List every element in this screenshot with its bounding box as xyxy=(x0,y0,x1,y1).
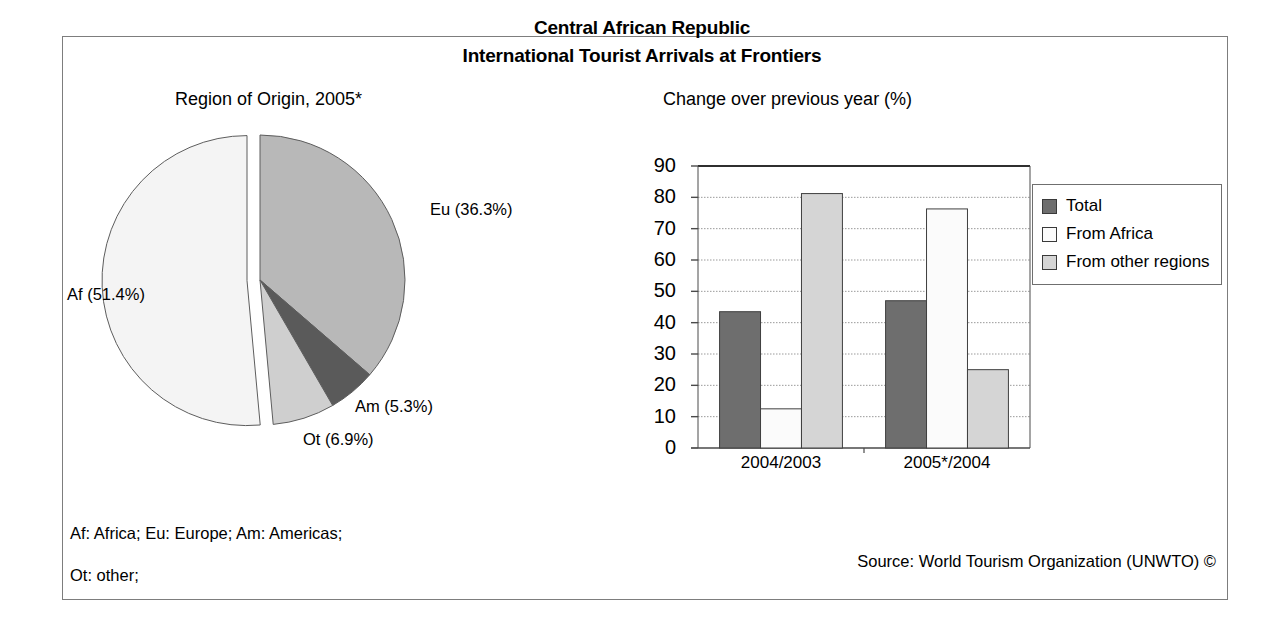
legend-item-from-other-regions[interactable]: From other regions xyxy=(1042,248,1210,276)
y-tick-label-50: 50 xyxy=(630,280,676,300)
bar-series-group xyxy=(720,194,1009,448)
x-tick-label-1: 2005*/2004 xyxy=(864,453,1030,473)
y-tick-label-60: 60 xyxy=(630,249,676,269)
bar-20052004-from-other-regions xyxy=(967,370,1008,448)
bar-20052004-total xyxy=(886,301,927,448)
pie-chart-subtitle: Region of Origin, 2005* xyxy=(175,88,362,110)
bar-chart: 0102030405060708090 2004/20032005*/2004 xyxy=(630,108,1050,488)
pie-chart-svg xyxy=(60,110,520,450)
y-tick-label-30: 30 xyxy=(630,343,676,363)
footnote-source: Source: World Tourism Organization (UNWT… xyxy=(700,552,1216,571)
legend-label-2: From other regions xyxy=(1066,253,1210,271)
legend-item-from-africa[interactable]: From Africa xyxy=(1042,220,1210,248)
legend-item-total[interactable]: Total xyxy=(1042,192,1210,220)
y-tick-label-0: 0 xyxy=(630,437,676,457)
pie-label-eu: Eu (36.3%) xyxy=(430,200,513,218)
page-title-line-2: International Tourist Arrivals at Fronti… xyxy=(0,42,1284,70)
page-title-line-1: Central African Republic xyxy=(0,14,1284,42)
y-tick-label-20: 20 xyxy=(630,374,676,394)
footnote-abbreviations-line-2: Ot: other; xyxy=(70,566,139,584)
legend-label-0: Total xyxy=(1066,197,1102,215)
legend-label-1: From Africa xyxy=(1066,225,1153,243)
x-tick-label-0: 2004/2003 xyxy=(698,453,864,473)
legend-swatch-icon-1 xyxy=(1042,227,1057,242)
y-tick-label-90: 90 xyxy=(630,155,676,175)
y-tick-label-10: 10 xyxy=(630,406,676,426)
bar-20052004-from-africa xyxy=(927,209,968,448)
legend-swatch-icon-2 xyxy=(1042,255,1057,270)
footnote-abbreviations-line-1: Af: Africa; Eu: Europe; Am: Americas; xyxy=(70,524,342,542)
bar-chart-legend: TotalFrom AfricaFrom other regions xyxy=(1032,184,1222,285)
pie-slice-group xyxy=(102,135,405,426)
bar-chart-svg xyxy=(630,108,1050,453)
chart-title-block: Central African Republic International T… xyxy=(0,14,1284,70)
y-tick-label-70: 70 xyxy=(630,218,676,238)
legend-swatch-icon-0 xyxy=(1042,199,1057,214)
pie-label-am: Am (5.3%) xyxy=(355,397,433,415)
bar-20042003-from-africa xyxy=(761,409,802,448)
bar-20042003-from-other-regions xyxy=(801,194,842,448)
y-tick-label-80: 80 xyxy=(630,186,676,206)
pie-label-ot: Ot (6.9%) xyxy=(303,430,374,448)
bar-chart-subtitle: Change over previous year (%) xyxy=(663,88,912,110)
pie-label-af: Af (51.4%) xyxy=(67,285,145,303)
pie-slice-af xyxy=(102,136,260,426)
y-tick-label-40: 40 xyxy=(630,312,676,332)
bar-20042003-total xyxy=(720,312,761,448)
pie-chart: Eu (36.3%) Af (51.4%) Am (5.3%) Ot (6.9%… xyxy=(60,110,520,450)
